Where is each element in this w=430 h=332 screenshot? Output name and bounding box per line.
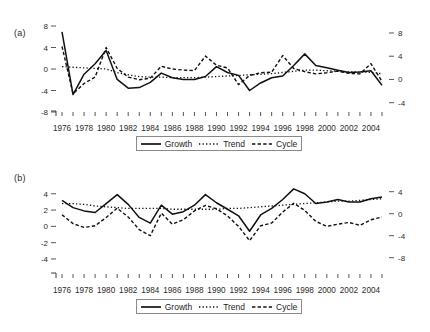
left-axis-tick-label: 8 [44,22,49,31]
x-tick-label: 1996 [274,286,293,295]
axes-group: 1976197819801982198419861988199019921994… [41,188,406,295]
x-tick-label: 1992 [229,286,248,295]
x-tick-label: 1980 [97,286,116,295]
series-line-cycle [62,203,382,240]
legend-panel-b: Growth Trend Cycle [136,299,302,314]
chart-panel-a: 1976197819801982198419861988199019921994… [0,0,430,166]
legend-label-growth: Growth [165,302,192,312]
left-axis-tick-label: 4 [44,190,49,199]
right-axis-tick-label: 8 [398,29,403,38]
dashed-line-swatch [252,303,272,311]
legend-label-trend: Trend [223,139,245,149]
legend-panel-a: Growth Trend Cycle [136,136,302,151]
legend-item-cycle: Cycle [252,139,297,149]
x-tick-label: 2004 [362,286,381,295]
right-axis-tick-label: 0 [398,210,403,219]
left-axis-tick-label: 0 [44,222,49,231]
dotted-line-swatch [199,140,219,148]
figure-root: 1976197819801982198419861988199019921994… [0,0,430,332]
x-tick-label: 2000 [318,286,337,295]
right-axis-tick-label: -4 [398,99,406,108]
right-axis-tick-label: 0 [398,75,403,84]
x-tick-label: 1992 [229,124,248,133]
panel-a-label: (a) [14,28,26,38]
x-tick-label: 1998 [296,124,315,133]
x-tick-label: 1984 [141,286,160,295]
x-tick-label: 1980 [97,124,116,133]
x-tick-label: 2000 [318,124,337,133]
left-axis-tick-label: 4 [44,44,49,53]
x-tick-label: 1990 [207,286,226,295]
x-tick-label: 1984 [141,124,160,133]
x-tick-label: 1988 [185,124,204,133]
left-axis-tick-label: -8 [41,108,49,117]
x-tick-label: 2002 [340,124,359,133]
x-tick-label: 1976 [53,124,72,133]
legend-item-cycle: Cycle [252,302,297,312]
legend-label-trend: Trend [223,302,245,312]
panel-b-label: (b) [14,173,26,183]
x-tick-label: 1978 [75,124,94,133]
x-tick-label: 1996 [274,124,293,133]
x-tick-label: 1994 [252,286,271,295]
left-axis-tick-label: -4 [41,255,49,264]
left-axis-tick-label: 2 [44,206,49,215]
legend-item-trend: Trend [199,302,245,312]
right-axis-tick-label: -4 [398,232,406,241]
x-tick-label: 2004 [362,124,381,133]
legend-label-growth: Growth [165,139,192,149]
legend-label-cycle: Cycle [276,139,297,149]
left-axis-tick-label: -4 [41,87,49,96]
left-axis-tick-label: 0 [44,65,49,74]
left-axis-tick-label: -2 [41,239,49,248]
axes-group: 1976197819801982198419861988199019921994… [41,22,406,133]
x-tick-label: 1998 [296,286,315,295]
x-tick-label: 1990 [207,124,226,133]
dotted-line-swatch [199,303,219,311]
x-tick-label: 1982 [119,286,138,295]
x-tick-label: 1986 [163,286,182,295]
right-axis-tick-label: -8 [398,254,406,263]
legend-item-growth: Growth [141,139,192,149]
dashed-line-swatch [252,140,272,148]
x-tick-label: 2002 [340,286,359,295]
x-tick-label: 1986 [163,124,182,133]
x-tick-label: 1994 [252,124,271,133]
right-axis-tick-label: 4 [398,52,403,61]
x-tick-label: 1982 [119,124,138,133]
legend-label-cycle: Cycle [276,302,297,312]
x-tick-label: 1978 [75,286,94,295]
series-line-trend [62,67,382,78]
right-axis-tick-label: 4 [398,188,403,197]
x-tick-label: 1988 [185,286,204,295]
solid-line-swatch [141,140,161,148]
legend-item-growth: Growth [141,302,192,312]
series-line-growth [62,32,382,95]
legend-item-trend: Trend [199,139,245,149]
solid-line-swatch [141,303,161,311]
x-tick-label: 1976 [53,286,72,295]
